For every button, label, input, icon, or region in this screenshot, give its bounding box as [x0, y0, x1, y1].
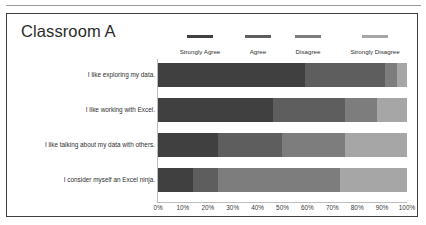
category-label: I like exploring my data. [7, 70, 155, 79]
chart-page: Classroom A Strongly AgreeAgreeDisagreeS… [0, 0, 426, 225]
category-label: I like talking about my data with others… [7, 140, 155, 149]
value-axis-tick-labels: 0%10%20%30%40%50%60%70%80%90%100% [157, 204, 413, 216]
bar-row[interactable] [158, 98, 407, 122]
chart-title: Classroom A [21, 22, 116, 41]
bar-segment[interactable] [218, 168, 340, 192]
bar-segment[interactable] [158, 98, 273, 122]
tick-label: 50% [276, 204, 289, 211]
tick-label: 40% [251, 204, 264, 211]
bar-segment[interactable] [397, 63, 407, 87]
tick-label: 0% [153, 204, 162, 211]
bar-segment[interactable] [345, 133, 407, 157]
plot-area [157, 59, 413, 202]
bar-segment[interactable] [385, 63, 397, 87]
legend-label: Disagree [296, 48, 321, 55]
tick-label: 60% [301, 204, 314, 211]
tick-label: 30% [226, 204, 239, 211]
category-label: I consider myself an Excel ninja. [7, 175, 155, 184]
value-axis-line [157, 202, 407, 203]
legend-swatch-icon [295, 35, 321, 38]
tick-label: 80% [351, 204, 364, 211]
page-top-rule [6, 5, 421, 6]
legend-item[interactable]: Agree [237, 35, 279, 58]
bar-segment[interactable] [193, 168, 218, 192]
bar-segment[interactable] [218, 133, 283, 157]
legend-label: Strongly Disagree [350, 48, 399, 55]
legend-label: Strongly Agree [180, 48, 221, 55]
category-label: I like working with Excel. [7, 105, 155, 114]
bar-row[interactable] [158, 133, 407, 157]
legend-item[interactable]: Strongly Agree [169, 35, 231, 58]
bar-segment[interactable] [158, 133, 218, 157]
tick-label: 10% [176, 204, 189, 211]
legend-swatch-icon [245, 35, 271, 38]
bar-segment[interactable] [305, 63, 385, 87]
bar-row[interactable] [158, 168, 407, 192]
bar-row[interactable] [158, 63, 407, 87]
tick-label: 20% [201, 204, 214, 211]
bar-segment[interactable] [377, 98, 407, 122]
bar-segment[interactable] [340, 168, 407, 192]
chart-frame: Classroom A Strongly AgreeAgreeDisagreeS… [6, 13, 418, 217]
legend-item[interactable]: Strongly Disagree [337, 35, 413, 58]
legend-label: Agree [250, 48, 267, 55]
bar-segment[interactable] [282, 133, 344, 157]
legend-swatch-icon [187, 35, 213, 38]
legend-swatch-icon [362, 35, 388, 38]
bar-segment[interactable] [158, 63, 305, 87]
tick-label: 90% [376, 204, 389, 211]
chart-legend: Strongly AgreeAgreeDisagreeStrongly Disa… [167, 35, 415, 57]
tick-label: 100% [399, 204, 415, 211]
bar-segment[interactable] [345, 98, 377, 122]
tick-label: 70% [326, 204, 339, 211]
category-axis-labels: I like exploring my data.I like working … [7, 59, 155, 202]
bar-segment[interactable] [158, 168, 193, 192]
bar-segment[interactable] [273, 98, 345, 122]
legend-item[interactable]: Disagree [285, 35, 331, 58]
